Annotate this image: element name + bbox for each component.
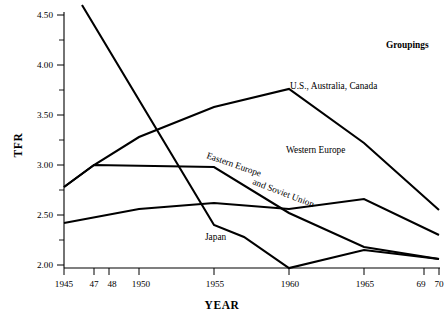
series-label-western-europe: Western Europe <box>286 145 345 155</box>
y-tick-label-450: 4.50 <box>37 10 53 20</box>
x-tick-label-70: 70 <box>434 279 444 289</box>
legend-title-groupings: Groupings <box>386 40 429 50</box>
x-tick-label-1955: 1955 <box>206 279 225 289</box>
y-tick-label-400: 4.00 <box>37 60 53 70</box>
series-label-us-australia-canada: U.S., Australia, Canada <box>290 81 377 91</box>
x-tick-label-1945: 1945 <box>55 279 74 289</box>
series-label-japan: Japan <box>205 232 227 242</box>
x-axis-title: YEAR <box>205 299 240 311</box>
x-tick-label-1950: 1950 <box>132 279 151 289</box>
x-tick-label-69: 69 <box>416 279 426 289</box>
y-tick-label-300: 3.00 <box>37 160 53 170</box>
x-tick-label-47: 47 <box>89 279 99 289</box>
x-tick-label-1965: 1965 <box>356 279 375 289</box>
y-tick-label-350: 3.50 <box>37 110 53 120</box>
y-axis-title: TFR <box>12 133 24 158</box>
chart-svg: 4.50 4.00 3.50 3.00 2.50 2.00 1945 47 48… <box>0 0 448 319</box>
y-tick-label-200: 2.00 <box>37 260 53 270</box>
x-tick-label-48: 48 <box>107 279 117 289</box>
tfr-line-chart: 4.50 4.00 3.50 3.00 2.50 2.00 1945 47 48… <box>0 0 448 319</box>
y-tick-label-250: 2.50 <box>37 210 53 220</box>
x-tick-label-1960: 1960 <box>281 279 300 289</box>
